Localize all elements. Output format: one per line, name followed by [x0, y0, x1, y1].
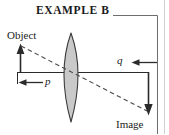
p-measure-arrowhead — [19, 79, 27, 86]
ray-diagram-canvas — [0, 0, 169, 134]
object-label: Object — [7, 30, 36, 41]
optics-figure: EXAMPLE B Object Image p q — [0, 0, 169, 134]
biconvex-lens-shape — [64, 33, 78, 122]
object-distance-label: p — [45, 76, 51, 87]
image-label: Image — [116, 119, 143, 130]
title-rule-line — [113, 16, 158, 135]
principal-ray-dashed-line — [21, 46, 147, 111]
object-arrow-head — [17, 44, 25, 55]
image-distance-label: q — [117, 55, 123, 66]
figure-title: EXAMPLE B — [36, 5, 109, 17]
q-measure-arrowhead — [132, 59, 140, 66]
